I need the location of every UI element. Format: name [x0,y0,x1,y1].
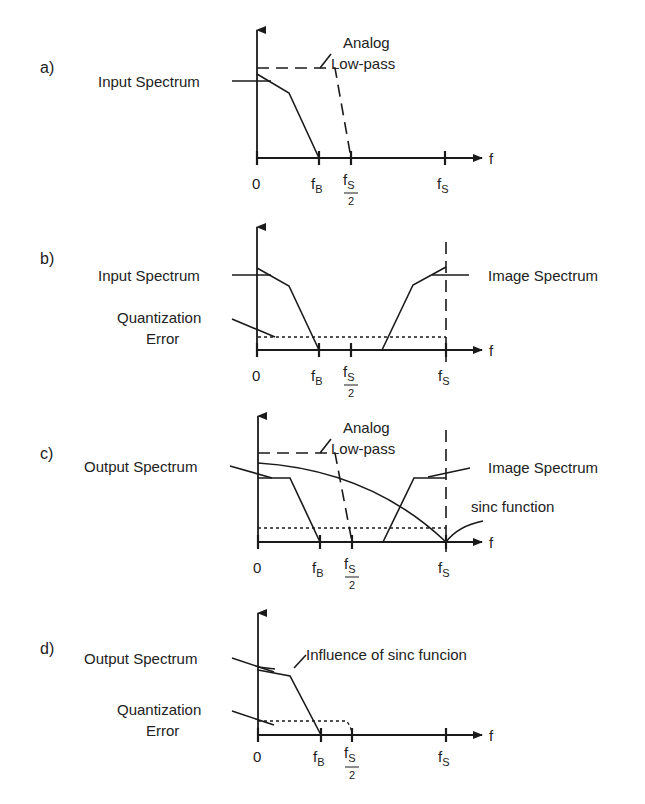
tick-label-zero: 0 [252,175,260,192]
label-image-spectrum: Image Spectrum [488,459,598,476]
tick-denominator: 2 [348,195,354,207]
x-axis-label-f: f [489,150,494,167]
tick-denominator: 2 [349,579,355,591]
label-quantization: Quantization [117,701,201,718]
tick-label-fB: fB [311,367,323,387]
input-spectrum-curve [257,268,319,350]
label-input-spectrum: Input Spectrum [98,267,200,284]
tick-denominator: 2 [348,387,354,399]
tick-label-fS: fS [438,367,450,387]
tick-label-fB: fB [311,175,323,195]
tick-label-fs-half: fS [344,744,356,764]
panel-letter-d: d) [40,640,54,657]
label-output-spectrum: Output Spectrum [84,650,197,667]
tick-label-fS: fS [438,748,450,768]
panel-c: c) f 0 fB fS 2 fS Output Spectrum Analog… [40,416,598,591]
x-axis-label-f: f [489,727,494,744]
tick-label-fB: fB [312,559,324,579]
label-error: Error [146,722,179,739]
label-quantization: Quantization [117,309,201,326]
tick-label-fB: fB [313,748,325,768]
x-axis-label-f: f [489,534,494,551]
panel-letter-c: c) [40,445,53,462]
label-output-spectrum: Output Spectrum [84,458,197,475]
input-spectrum-curve [257,74,319,158]
x-axis-label-f: f [489,342,494,359]
label-sinc-function: sinc function [471,498,554,515]
sinc-function-curve [258,463,446,542]
output-spectrum-curve [258,670,321,735]
tick-label-zero: 0 [253,559,261,576]
label-image-spectrum: Image Spectrum [488,267,598,284]
tick-label-fs-half: fS [344,555,356,575]
analog-lowpass-curve [258,453,352,542]
output-spectrum-curve [258,478,320,542]
sampling-spectra-figure: a) f 0 fB fS 2 fS Input Spectrum Analog … [0,0,645,804]
panel-b: b) f 0 fB fS 2 fS Input Spectrum Quantiz… [40,227,598,399]
panel-letter-b: b) [40,250,54,267]
tick-label-zero: 0 [252,367,260,384]
label-error: Error [146,330,179,347]
label-analog: Analog [343,34,390,51]
tick-label-fS: fS [438,559,450,579]
panel-d: d) f 0 fB fS 2 fS Output Spectrum Influe… [40,613,494,781]
tick-denominator: 2 [349,769,355,781]
tick-label-zero: 0 [253,748,261,765]
label-low-pass: Low-pass [331,440,395,457]
panel-letter-a: a) [40,59,54,76]
tick-label-fs-half: fS [343,171,355,191]
tick-label-fs-half: fS [343,363,355,383]
label-low-pass: Low-pass [331,55,395,72]
label-input-spectrum: Input Spectrum [98,73,200,90]
panel-a: a) f 0 fB fS 2 fS Input Spectrum Analog … [40,30,494,207]
tick-label-fS: fS [437,175,449,195]
quantization-error-floor [258,721,352,733]
sinc-sidelobe [446,521,483,542]
label-influence-of-sinc: Influence of sinc funcion [306,646,467,663]
label-analog: Analog [343,419,390,436]
